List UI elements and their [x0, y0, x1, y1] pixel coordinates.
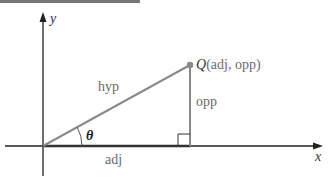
right-angle-marker	[178, 134, 190, 146]
point-q	[187, 62, 193, 68]
angle-label: θ	[86, 129, 93, 143]
hypotenuse-side	[43, 65, 190, 146]
point-coords: (adj, opp)	[206, 57, 260, 72]
right-triangle-diagram: y x Q(adj, opp) hyp opp adj θ	[0, 0, 334, 181]
angle-arc	[77, 127, 82, 146]
point-label: Q(adj, opp)	[196, 58, 261, 72]
hypotenuse-label: hyp	[98, 80, 119, 94]
y-axis-arrow-icon	[40, 12, 47, 22]
x-axis-label: x	[315, 150, 321, 164]
diagram-graphics	[0, 0, 334, 181]
point-name: Q	[196, 57, 206, 72]
opposite-label: opp	[196, 95, 217, 109]
y-axis-label: y	[50, 12, 56, 26]
adjacent-label: adj	[105, 153, 122, 167]
